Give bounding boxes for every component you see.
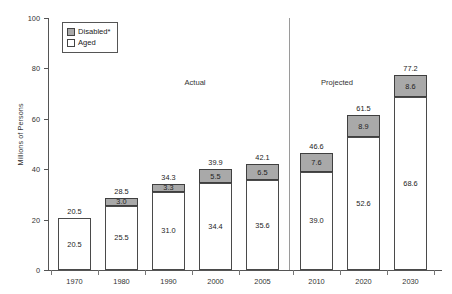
- x-axis-tick: [293, 270, 294, 275]
- bar-segment-disabled-label: 7.6: [311, 158, 321, 167]
- y-axis-tick-label: 40: [14, 165, 40, 174]
- bar-segment-aged-label: 25.5: [114, 233, 128, 242]
- x-axis-tick: [98, 270, 99, 275]
- bar-group[interactable]: 25.53.028.5: [105, 18, 138, 270]
- bar-total-label: 34.3: [152, 173, 185, 182]
- y-axis-title: Millions of Persons: [16, 70, 25, 200]
- bar-segment-aged[interactable]: 35.6: [246, 180, 279, 270]
- bar-group[interactable]: 34.45.539.9: [199, 18, 232, 270]
- x-axis-tick: [145, 270, 146, 275]
- bar-total-label: 28.5: [105, 187, 138, 196]
- x-axis-label-1990: 1990: [146, 277, 192, 286]
- bar-group[interactable]: 68.68.677.2: [394, 18, 427, 270]
- bar-group[interactable]: 52.68.961.5: [347, 18, 380, 270]
- bar-segment-disabled[interactable]: 3.0: [105, 198, 138, 206]
- bar-segment-disabled[interactable]: 8.6: [394, 75, 427, 97]
- y-axis-tick-label: 80: [14, 64, 40, 73]
- bar-segment-disabled[interactable]: 5.5: [199, 169, 232, 183]
- y-axis-tick: [44, 68, 49, 69]
- bar-segment-aged-label: 52.6: [356, 199, 370, 208]
- x-axis-label-1980: 1980: [99, 277, 145, 286]
- bar-segment-aged-label: 20.5: [67, 240, 81, 249]
- bar-segment-aged[interactable]: 25.5: [105, 206, 138, 270]
- x-axis-tick: [239, 270, 240, 275]
- x-axis-tick: [387, 270, 388, 275]
- bar-segment-aged[interactable]: 52.6: [347, 137, 380, 270]
- y-axis-tick-label: 20: [14, 216, 40, 225]
- bar-segment-disabled-label: 8.9: [358, 122, 368, 131]
- chart-canvas: Millions of Persons Actual Projected Dis…: [0, 0, 452, 294]
- x-axis-label-1970: 1970: [52, 277, 98, 286]
- x-axis-tick: [434, 270, 435, 275]
- bar-segment-disabled-label: 3.0: [116, 197, 126, 206]
- bar-segment-disabled[interactable]: 7.6: [300, 153, 333, 172]
- y-axis-tick: [44, 18, 49, 19]
- bar-total-label: 20.5: [58, 207, 91, 216]
- bar-total-label: 39.9: [199, 158, 232, 167]
- bar-total-label: 42.1: [246, 153, 279, 162]
- bar-segment-aged-label: 34.4: [208, 222, 222, 231]
- y-axis-tick: [44, 270, 49, 271]
- y-axis-tick: [44, 220, 49, 221]
- bar-group[interactable]: 20.520.5: [58, 18, 91, 270]
- x-axis-label-2005: 2005: [240, 277, 286, 286]
- bar-segment-aged-label: 68.6: [403, 179, 417, 188]
- x-axis-label-2020: 2020: [341, 277, 387, 286]
- x-axis-line: [48, 270, 442, 271]
- x-axis-label-2000: 2000: [193, 277, 239, 286]
- bar-segment-disabled[interactable]: 8.9: [347, 115, 380, 137]
- bar-segment-disabled-label: 5.5: [210, 172, 220, 181]
- actual-projected-divider: [289, 18, 290, 270]
- bar-segment-aged[interactable]: 39.0: [300, 172, 333, 270]
- bar-segment-disabled[interactable]: 3.3: [152, 184, 185, 192]
- bar-segment-aged-label: 35.6: [255, 221, 269, 230]
- bar-group[interactable]: 39.07.646.6: [300, 18, 333, 270]
- x-axis-label-2010: 2010: [294, 277, 340, 286]
- bar-segment-aged[interactable]: 31.0: [152, 192, 185, 270]
- bar-segment-disabled-label: 6.5: [257, 168, 267, 177]
- bar-segment-aged-label: 31.0: [161, 226, 175, 235]
- y-axis-tick-label: 60: [14, 115, 40, 124]
- bar-total-label: 61.5: [347, 104, 380, 113]
- y-axis-tick: [44, 169, 49, 170]
- bar-segment-disabled-label: 8.6: [405, 82, 415, 91]
- bar-total-label: 77.2: [394, 64, 427, 73]
- x-axis-label-2030: 2030: [388, 277, 434, 286]
- x-axis-tick: [51, 270, 52, 275]
- y-axis-tick: [44, 119, 49, 120]
- bar-segment-aged-label: 39.0: [309, 216, 323, 225]
- y-axis-line: [48, 18, 49, 270]
- x-axis-tick: [192, 270, 193, 275]
- bar-group[interactable]: 35.66.542.1: [246, 18, 279, 270]
- bar-segment-aged[interactable]: 20.5: [58, 218, 91, 270]
- bar-segment-aged[interactable]: 34.4: [199, 183, 232, 270]
- y-axis-tick-label: 100: [14, 14, 40, 23]
- bar-segment-disabled[interactable]: 6.5: [246, 164, 279, 180]
- bar-segment-disabled-label: 3.3: [163, 183, 173, 192]
- bar-segment-aged[interactable]: 68.6: [394, 97, 427, 270]
- y-axis-tick-label: 0: [14, 266, 40, 275]
- bar-total-label: 46.6: [300, 142, 333, 151]
- bar-group[interactable]: 31.03.334.3: [152, 18, 185, 270]
- x-axis-tick: [340, 270, 341, 275]
